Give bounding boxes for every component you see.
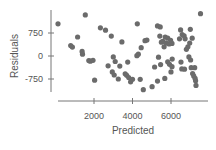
data-point [157,34,162,39]
data-point [158,62,163,67]
y-tick-label: -750 [25,74,43,84]
data-point [98,25,103,30]
data-point [130,77,135,82]
data-point [109,34,114,39]
data-point [139,45,144,50]
data-point [193,83,198,88]
data-point [83,12,88,17]
data-point [169,41,174,46]
data-point [103,28,108,33]
x-axis-label: Predicted [112,125,154,136]
data-point [156,55,161,60]
data-point [187,41,192,46]
data-point [155,79,160,84]
residual-scatter-plot: 7500-750 200040006000 Residuals Predicte… [0,0,216,150]
data-point [182,67,187,72]
data-point [150,84,155,89]
data-point [112,72,117,77]
data-point [168,69,173,74]
data-point [162,76,167,81]
data-point [135,21,140,26]
y-axis-label: Residuals [9,34,20,78]
y-tick-label: 750 [28,28,43,38]
data-point [188,27,193,32]
y-tick-label: 0 [38,51,43,61]
data-point [116,76,121,81]
y-ticks: 7500-750 [25,28,54,84]
data-point [125,60,130,65]
data-points [55,11,203,92]
data-point [141,87,146,92]
data-point [111,54,116,59]
data-point [55,21,60,26]
data-point [169,64,174,69]
data-point [117,64,122,69]
data-point [178,27,183,32]
data-point [70,45,75,50]
data-point [158,24,163,29]
data-point [92,78,97,83]
x-tick-label: 4000 [122,111,142,121]
data-point [170,57,175,62]
data-point [188,57,193,62]
data-point [90,58,95,63]
data-point [113,59,118,64]
data-point [106,63,111,68]
data-point [152,64,157,69]
data-point [192,65,197,70]
data-point [183,36,188,41]
data-point [80,52,85,57]
data-point [138,77,143,82]
x-tick-label: 2000 [84,111,104,121]
data-point [119,39,124,44]
data-point [198,11,203,16]
data-point [178,60,183,65]
x-tick-label: 6000 [161,111,181,121]
data-point [190,36,195,41]
data-point [136,52,141,57]
data-point [177,36,182,41]
data-point [75,34,80,39]
data-point [193,78,198,83]
data-point [144,38,149,43]
